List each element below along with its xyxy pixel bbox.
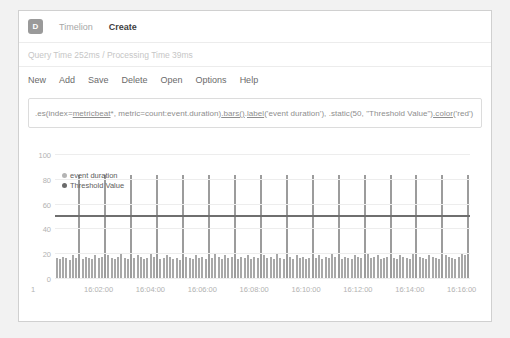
query-timing-bar: Query Time 252ms / Processing Time 39ms (19, 43, 491, 67)
chart-bar (176, 258, 178, 279)
gridline (55, 154, 470, 155)
chart-bar (393, 258, 395, 279)
chart-bar (299, 258, 301, 279)
chart-bar (419, 257, 421, 279)
chart-bar (383, 258, 385, 279)
chart-bar (182, 175, 184, 279)
chart-bar (377, 255, 379, 279)
chart-bar (318, 255, 320, 279)
chart-bar (156, 175, 158, 279)
menu-item-add[interactable]: Add (59, 75, 75, 85)
chart-bar (270, 257, 272, 279)
chart-bar (247, 255, 249, 279)
chart-bar (137, 255, 139, 279)
chart-bar (409, 259, 411, 279)
nav-item-create[interactable]: Create (109, 22, 137, 32)
chart-bar (130, 175, 132, 279)
chart-bar (169, 257, 171, 279)
legend-item-event-duration[interactable]: event duration (62, 171, 124, 180)
chart-bar (292, 259, 294, 279)
chart-bar (367, 254, 369, 279)
chart-bar (380, 259, 382, 279)
x-axis-tick-label: 16:02:00 (84, 285, 113, 294)
chart-bar (321, 259, 323, 279)
x-axis-tick-label: 16:06:00 (188, 285, 217, 294)
chart-bar (464, 255, 466, 279)
chart-bar (250, 259, 252, 279)
chart-bar (227, 258, 229, 279)
chart-bar (211, 258, 213, 279)
chart-bar (360, 258, 362, 279)
chart-bar (312, 175, 314, 279)
chart-bar (201, 257, 203, 279)
chart-bar (208, 175, 210, 279)
chart-bar (140, 257, 142, 279)
app-logo-badge[interactable]: D (28, 19, 43, 34)
chart-bar (189, 258, 191, 279)
chart-bar (257, 258, 259, 279)
chart-bar (276, 254, 278, 279)
top-navbar: D Timelion Create (19, 11, 491, 43)
nav-item-timelion[interactable]: Timelion (59, 22, 93, 32)
chart-bar (260, 175, 262, 279)
y-axis-tick-label: 0 (47, 275, 51, 284)
chart-bar (88, 258, 90, 279)
chart-bar (415, 175, 417, 279)
chart-bar (373, 257, 375, 279)
chart-bar (325, 257, 327, 279)
chart-bar (445, 255, 447, 279)
gridline (55, 278, 470, 279)
chart-bar (231, 257, 233, 279)
expression-row: .es(index=metricbeat*, metric=count:even… (19, 93, 491, 128)
gridline (55, 204, 470, 205)
chart-bar (354, 255, 356, 279)
chart-bar (428, 255, 430, 279)
chart-bar (185, 257, 187, 279)
chart-bar (127, 259, 129, 279)
chart-bar (273, 259, 275, 279)
chart-bar (334, 257, 336, 279)
chart-bar (120, 254, 122, 279)
chart-bar (283, 259, 285, 279)
chart-bar (328, 258, 330, 279)
chart-bar (198, 258, 200, 279)
chart-bar (240, 257, 242, 279)
chart-bar (244, 258, 246, 279)
chart-bar (315, 258, 317, 279)
chart-bar (72, 255, 74, 279)
x-axis-tick-label: 16:16:00 (447, 285, 476, 294)
chart-bar (56, 258, 58, 279)
menu-item-new[interactable]: New (28, 75, 46, 85)
chart-bar (402, 257, 404, 279)
chart-bar (399, 255, 401, 279)
menu-item-help[interactable]: Help (240, 75, 259, 85)
chart-bar (357, 257, 359, 279)
chart-bar (143, 259, 145, 279)
chart-bar (224, 255, 226, 279)
menu-item-delete[interactable]: Delete (122, 75, 148, 85)
chart-bar (172, 259, 174, 279)
menu-item-save[interactable]: Save (88, 75, 109, 85)
chart-legend: event duration Threshold Value (62, 171, 124, 191)
chart-bar (150, 254, 152, 279)
chart-bar (435, 258, 437, 279)
chart-bar (75, 258, 77, 279)
chart-bar (234, 175, 236, 279)
chart-bar (432, 257, 434, 279)
chart-bar (396, 259, 398, 279)
chart-bar (214, 254, 216, 279)
y-axis-tick-label: 100 (38, 151, 51, 160)
chart-bar (341, 259, 343, 279)
chart-bar (91, 259, 93, 279)
legend-item-threshold-value[interactable]: Threshold Value (62, 181, 124, 190)
chart-bar (364, 175, 366, 279)
timelion-chart: 02040608010016:02:0016:04:0016:06:0016:0… (28, 145, 482, 305)
chart-bar (192, 259, 194, 279)
expression-input[interactable]: .es(index=metricbeat*, metric=count:even… (28, 98, 482, 128)
menu-bar: New Add Save Delete Open Options Help (19, 67, 491, 93)
menu-item-open[interactable]: Open (161, 75, 183, 85)
chart-bar (98, 258, 100, 279)
chart-bar (114, 259, 116, 279)
chart-bar (163, 258, 165, 279)
menu-item-options[interactable]: Options (196, 75, 227, 85)
